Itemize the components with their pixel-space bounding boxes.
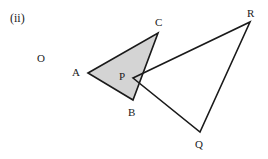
figure-canvas	[0, 0, 268, 159]
vertex-label-p: P	[119, 71, 125, 82]
vertex-label-a: A	[72, 67, 80, 78]
vertex-label-c: C	[155, 17, 162, 28]
vertex-label-b: B	[128, 107, 135, 118]
vertex-label-q: Q	[195, 139, 203, 150]
geometry-figure: (ii) O A C B P R Q	[0, 0, 268, 159]
part-label: (ii)	[10, 12, 25, 24]
origin-point-label: O	[37, 53, 45, 64]
vertex-label-r: R	[247, 8, 254, 19]
